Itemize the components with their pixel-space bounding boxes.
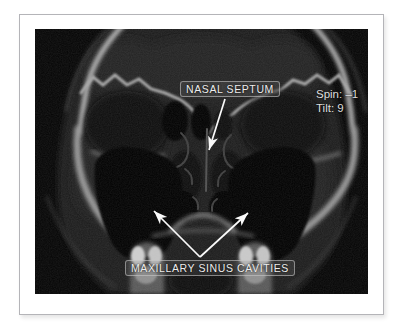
ct-scan-viewport[interactable]: NASAL SEPTUM MAXILLARY SINUS CAVITIES Sp… bbox=[35, 29, 368, 294]
spin-tilt-readout: Spin: –1 Tilt: 9 bbox=[316, 87, 358, 115]
spin-value: Spin: –1 bbox=[316, 87, 358, 101]
nasal-septum-label: NASAL SEPTUM bbox=[180, 81, 280, 97]
maxillary-sinus-cavities-label: MAXILLARY SINUS CAVITIES bbox=[125, 260, 295, 276]
figure-frame: NASAL SEPTUM MAXILLARY SINUS CAVITIES Sp… bbox=[19, 14, 384, 315]
tilt-value: Tilt: 9 bbox=[316, 101, 358, 115]
ct-anatomy-image bbox=[35, 29, 368, 294]
